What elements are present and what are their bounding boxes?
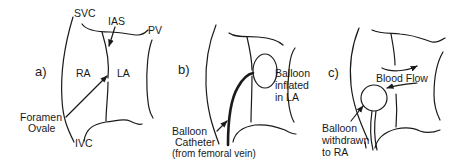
withdrawn-balloon — [361, 85, 387, 111]
ias-label: IAS — [108, 16, 125, 27]
foramen-ovale-arrow — [66, 76, 107, 117]
interatrial-septum — [102, 32, 109, 121]
floor-b — [233, 125, 296, 142]
foramen-label-line2: Ovale — [28, 123, 55, 134]
ra-label: RA — [76, 68, 91, 79]
catheter-label-arrow — [217, 121, 227, 131]
withdrawn-label-line1: Balloon — [322, 123, 357, 134]
catheter-label-line3: (from femoral vein) — [172, 148, 256, 159]
balloon-inflated-line2: inflated — [275, 80, 309, 91]
panel-b-label: b) — [178, 64, 190, 75]
panel-a-drawing — [62, 17, 153, 142]
la-outer-wall-c — [434, 52, 443, 120]
balloon-inflated-line3: in LA — [275, 92, 299, 103]
septum-b — [247, 37, 252, 122]
floor-c — [375, 128, 440, 148]
balloon-catheter — [228, 73, 253, 145]
svc-label: SVC — [74, 8, 96, 19]
blood-flow-label: Blood Flow — [376, 73, 428, 84]
ivc-label: IVC — [75, 138, 93, 149]
panel-c-label: c) — [328, 67, 339, 78]
withdrawn-label-arrow — [351, 106, 363, 121]
panel-c-drawing — [350, 28, 445, 150]
blood-flow-arrow-top — [382, 66, 417, 71]
ra-outer-wall-b — [206, 25, 219, 144]
la-outer-wall — [147, 40, 153, 118]
panel-a-label: a) — [35, 66, 47, 77]
ra-outer-wall — [62, 17, 74, 142]
septostomy-diagram: a) SVC IAS PV RA LA Foramen Ovale IVC b)… — [0, 0, 465, 166]
withdrawn-label-line2: withdrawn — [322, 135, 369, 146]
catheter-label-line2: Catheter — [175, 137, 215, 148]
withdrawn-catheter-a — [371, 111, 373, 150]
withdrawn-label-line3: to RA — [322, 147, 348, 158]
atrial-roof-c — [372, 30, 445, 42]
atrial-roof-b — [229, 33, 283, 45]
pv-label: PV — [148, 25, 162, 36]
la-label: LA — [117, 68, 130, 79]
balloon-inflated-line1: Balloon — [275, 68, 310, 79]
inflated-balloon — [253, 54, 277, 88]
ias-arrow — [109, 27, 115, 46]
